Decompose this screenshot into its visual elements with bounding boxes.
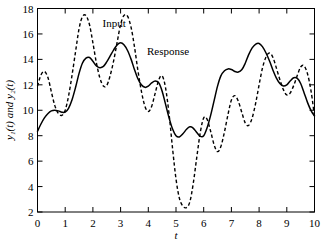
x-axis-label: t [174,229,178,241]
x-tick-label: 4 [146,217,152,229]
x-tick-label: 9 [284,217,290,229]
x-tick-label: 3 [118,217,124,229]
x-tick-label: 2 [90,217,96,229]
y-tick-label: 18 [23,3,35,15]
x-tick-label: 5 [173,217,179,229]
y-tick-label: 8 [28,130,34,142]
y-tick-label: 12 [23,79,34,91]
y-tick-label: 6 [28,155,34,167]
x-tick-label: 6 [201,217,207,229]
x-tick-label: 10 [309,217,321,229]
input-curve [38,15,315,208]
annotation-input: Input [103,17,126,29]
y-axis-label-group: y₁(t) and y₂(t) [3,80,16,142]
annotation-response: Response [147,45,189,57]
y-axis-label: y₁(t) and y₂(t) [3,80,16,142]
y-tick-label: 16 [23,28,35,40]
x-tick-label: 1 [62,217,68,229]
x-tick-label: 8 [256,217,262,229]
y-tick-label: 14 [23,53,35,65]
chart-figure: 24681012141618 012345678910 y₁(t) and y₂… [0,0,330,246]
y-axis-tick-labels: 24681012141618 [23,3,35,219]
chart-svg: 24681012141618 012345678910 y₁(t) and y₂… [0,0,330,246]
x-tick-label: 0 [35,217,41,229]
x-tick-label: 7 [229,217,235,229]
y-tick-label: 2 [28,206,34,218]
x-axis-tick-labels: 012345678910 [35,217,321,229]
y-tick-label: 10 [23,104,35,116]
y-tick-label: 4 [28,181,34,193]
